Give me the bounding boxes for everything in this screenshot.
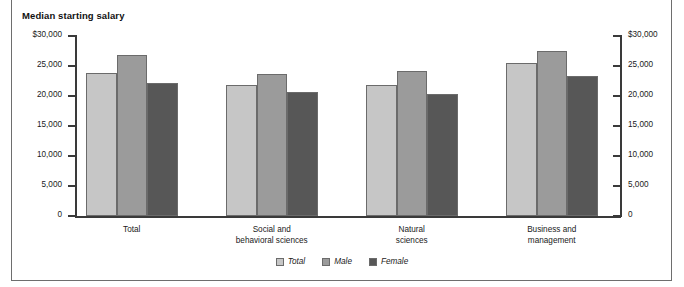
- y-axis-tick-label: 20,000: [37, 91, 62, 99]
- y-axis-tick-label: 15,000: [628, 121, 653, 129]
- y-axis-tick-label: 20,000: [628, 91, 653, 99]
- legend-label: Male: [334, 258, 352, 266]
- x-axis-category-label-line: behavioral sciences: [212, 236, 332, 247]
- y-axis-tick-label: 10,000: [628, 151, 653, 159]
- bar-male-group-1: [117, 55, 148, 216]
- y-axis-tick-mark: [68, 125, 75, 126]
- y-axis-tick-label: 0: [57, 211, 62, 219]
- y-axis-tick-mark: [613, 125, 620, 126]
- chart-legend: TotalMaleFemale: [0, 258, 684, 266]
- x-axis-category-label-line: Business and: [492, 225, 612, 236]
- y-axis-tick-label: 5,000: [628, 181, 649, 189]
- x-axis-category-label: Social andbehavioral sciences: [212, 225, 332, 246]
- frame-bottom-rule: [11, 280, 672, 281]
- y-axis-tick-mark: [613, 215, 620, 216]
- frame-right-rule: [671, 0, 672, 281]
- legend-swatch-icon: [276, 258, 284, 266]
- y-axis-tick-mark: [613, 35, 620, 36]
- legend-item-female[interactable]: Female: [369, 258, 408, 266]
- chart-figure: Median starting salary $30,00025,00020,0…: [0, 0, 684, 287]
- y-axis-tick-label: 10,000: [37, 151, 62, 159]
- y-axis-tick-label: 25,000: [37, 61, 62, 69]
- x-axis-category-label: Naturalsciences: [352, 225, 472, 246]
- y-axis-tick-mark: [68, 65, 75, 66]
- y-axis-tick-label: $30,000: [32, 31, 62, 39]
- bar-total-group-2: [226, 85, 257, 216]
- legend-swatch-icon: [322, 258, 330, 266]
- bar-female-group-1: [147, 83, 178, 216]
- x-axis-category-label-line: Total: [72, 225, 192, 236]
- bar-total-group-3: [366, 85, 397, 216]
- y-axis-tick-label: 25,000: [628, 61, 653, 69]
- y-axis-tick-mark: [68, 155, 75, 156]
- y-axis-tick-mark: [68, 215, 75, 216]
- chart-title: Median starting salary: [22, 10, 125, 21]
- y-axis-right-line: [620, 35, 622, 217]
- bar-female-group-2: [287, 92, 318, 216]
- bar-total-group-4: [506, 63, 537, 216]
- bar-male-group-3: [397, 71, 428, 216]
- legend-label: Female: [381, 258, 408, 266]
- y-axis-tick-mark: [613, 185, 620, 186]
- x-axis-category-label-line: sciences: [352, 236, 472, 247]
- bar-female-group-4: [567, 76, 598, 216]
- y-axis-tick-mark: [68, 95, 75, 96]
- legend-item-total[interactable]: Total: [276, 258, 305, 266]
- y-axis-tick-label: 5,000: [42, 181, 63, 189]
- bar-male-group-2: [257, 74, 288, 216]
- y-axis-left-line: [75, 35, 77, 217]
- legend-item-male[interactable]: Male: [322, 258, 352, 266]
- y-axis-tick-label: 15,000: [37, 121, 62, 129]
- y-axis-tick-mark: [68, 185, 75, 186]
- legend-label: Total: [288, 258, 305, 266]
- bar-female-group-3: [427, 94, 458, 216]
- x-axis-category-label-line: Natural: [352, 225, 472, 236]
- y-axis-tick-label: $30,000: [628, 31, 658, 39]
- y-axis-tick-mark: [613, 95, 620, 96]
- bar-male-group-4: [537, 51, 568, 216]
- y-axis-tick-mark: [613, 65, 620, 66]
- x-axis-category-label: Total: [72, 225, 192, 236]
- y-axis-tick-mark: [68, 35, 75, 36]
- y-axis-tick-label: 0: [628, 211, 633, 219]
- legend-swatch-icon: [369, 258, 377, 266]
- x-axis-category-label: Business andmanagement: [492, 225, 612, 246]
- x-axis-category-label-line: management: [492, 236, 612, 247]
- bar-total-group-1: [86, 73, 117, 216]
- x-axis-category-label-line: Social and: [212, 225, 332, 236]
- x-axis-baseline: [75, 216, 621, 218]
- y-axis-tick-mark: [613, 155, 620, 156]
- frame-left-rule: [11, 0, 12, 281]
